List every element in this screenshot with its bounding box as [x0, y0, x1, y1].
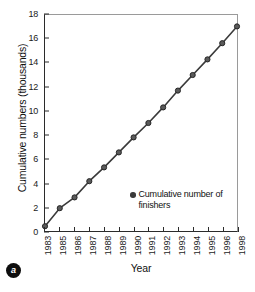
data-point-marker [220, 41, 225, 46]
x-tick-label: 1992 [163, 236, 172, 255]
y-tick-mark [44, 38, 49, 39]
y-tick-label: 10 [28, 106, 38, 115]
x-tick-mark [134, 227, 135, 232]
y-tick-mark [44, 159, 49, 160]
x-tick-mark [223, 227, 224, 232]
y-tick-label: 12 [28, 82, 38, 91]
data-point-marker [57, 206, 62, 211]
x-tick-label: 1983 [44, 236, 53, 255]
data-point-marker [234, 24, 239, 29]
y-tick-label: 4 [33, 179, 38, 188]
data-point-marker [131, 135, 136, 140]
x-tick-mark [89, 227, 90, 232]
chart-legend: Cumulative number of finishers [130, 189, 241, 211]
y-tick-label: 16 [28, 34, 38, 43]
x-axis-title: Year [44, 262, 238, 274]
y-tick-mark [44, 14, 49, 15]
x-tick-label: 1993 [178, 236, 187, 255]
y-tick-mark [44, 207, 49, 208]
x-tick-label: 1988 [103, 236, 112, 255]
data-point-marker [205, 57, 210, 62]
data-point-marker [161, 105, 166, 110]
y-tick-mark [44, 135, 49, 136]
x-tick-label: 1985 [58, 236, 67, 255]
x-tick-mark [163, 227, 164, 232]
x-tick-mark [119, 227, 120, 232]
y-tick-label: 18 [28, 10, 38, 19]
x-tick-mark [74, 227, 75, 232]
data-point-marker [116, 150, 121, 155]
x-axis-tick-labels: 1983198519861987198819891990199119921993… [44, 232, 238, 262]
data-point-marker [102, 165, 107, 170]
data-point-marker [190, 72, 195, 77]
data-point-marker [175, 88, 180, 93]
x-tick-label: 1987 [88, 236, 97, 255]
y-tick-label: 8 [33, 131, 38, 140]
legend-label: Cumulative number of finishers [139, 189, 241, 211]
y-tick-mark [44, 110, 49, 111]
figure-panel: Cumulative numbers (thousands) 024681012… [0, 0, 255, 292]
y-tick-mark [44, 183, 49, 184]
data-point-marker [72, 195, 77, 200]
x-tick-mark [44, 227, 45, 232]
x-tick-mark [208, 227, 209, 232]
x-tick-mark [104, 227, 105, 232]
data-point-marker [87, 179, 92, 184]
y-tick-label: 6 [33, 155, 38, 164]
y-tick-mark [44, 62, 49, 63]
y-tick-mark [44, 86, 49, 87]
x-tick-mark [148, 227, 149, 232]
x-tick-mark [238, 227, 239, 232]
y-tick-label: 0 [33, 228, 38, 237]
panel-label-badge: a [6, 263, 21, 278]
x-tick-label: 1998 [238, 236, 247, 255]
legend-marker-icon [130, 192, 136, 198]
x-tick-label: 1994 [193, 236, 202, 255]
x-tick-label: 1995 [208, 236, 217, 255]
x-tick-mark [193, 227, 194, 232]
data-point-marker [146, 120, 151, 125]
x-tick-mark [59, 227, 60, 232]
x-tick-mark [178, 227, 179, 232]
x-tick-label: 1996 [223, 236, 232, 255]
x-tick-label: 1990 [133, 236, 142, 255]
y-tick-label: 2 [33, 203, 38, 212]
x-tick-label: 1986 [73, 236, 82, 255]
y-axis-tick-labels: 024681012141618 [0, 14, 42, 232]
y-tick-label: 14 [28, 58, 38, 67]
x-tick-label: 1991 [148, 236, 157, 255]
x-tick-label: 1989 [118, 236, 127, 255]
